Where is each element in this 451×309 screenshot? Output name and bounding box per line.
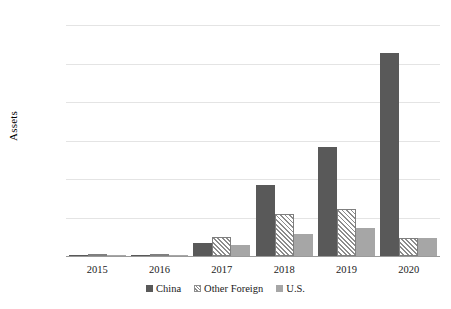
legend-item-china[interactable]: China bbox=[146, 283, 181, 294]
bar-groups: 201520162017201820192020 bbox=[66, 25, 440, 256]
bar-other-2015[interactable] bbox=[88, 254, 107, 256]
x-tick-label: 2019 bbox=[315, 264, 377, 275]
bars bbox=[253, 25, 315, 256]
legend-swatch-icon bbox=[276, 285, 283, 292]
bars bbox=[315, 25, 377, 256]
plot-area: 050100150200250300 201520162017201820192… bbox=[66, 25, 440, 256]
bar-other-2016[interactable] bbox=[150, 254, 169, 256]
bar-us-2019[interactable] bbox=[356, 228, 375, 256]
legend-label: China bbox=[156, 283, 181, 294]
y-axis-title: Assets bbox=[7, 96, 19, 156]
axis-baseline bbox=[66, 256, 440, 257]
bar-other-2019[interactable] bbox=[337, 209, 356, 256]
bar-us-2016[interactable] bbox=[169, 255, 188, 256]
bar-china-2016[interactable] bbox=[131, 255, 150, 256]
legend-swatch-icon bbox=[146, 285, 153, 292]
bar-us-2018[interactable] bbox=[294, 234, 313, 256]
bar-group: 2015 bbox=[66, 25, 128, 256]
bar-group: 2020 bbox=[378, 25, 440, 256]
bar-us-2015[interactable] bbox=[107, 255, 126, 256]
bar-china-2015[interactable] bbox=[69, 255, 88, 256]
bar-chart: Assets 050100150200250300 20152016201720… bbox=[0, 0, 451, 309]
bars bbox=[378, 25, 440, 256]
bar-other-2017[interactable] bbox=[212, 237, 231, 256]
bars bbox=[128, 25, 190, 256]
bar-china-2018[interactable] bbox=[256, 185, 275, 256]
legend-label: Other Foreign bbox=[204, 283, 263, 294]
x-tick-label: 2017 bbox=[191, 264, 253, 275]
legend-swatch-icon bbox=[194, 285, 201, 292]
legend-item-us[interactable]: U.S. bbox=[276, 283, 305, 294]
legend-item-other[interactable]: Other Foreign bbox=[194, 283, 263, 294]
legend-label: U.S. bbox=[286, 283, 305, 294]
x-tick-label: 2015 bbox=[66, 264, 128, 275]
bar-china-2017[interactable] bbox=[193, 243, 212, 256]
x-tick-label: 2018 bbox=[253, 264, 315, 275]
bar-other-2018[interactable] bbox=[275, 214, 294, 256]
bar-other-2020[interactable] bbox=[399, 238, 418, 256]
bar-china-2020[interactable] bbox=[380, 53, 399, 256]
x-tick-label: 2020 bbox=[378, 264, 440, 275]
bar-china-2019[interactable] bbox=[318, 147, 337, 256]
bar-group: 2019 bbox=[315, 25, 377, 256]
x-tick-label: 2016 bbox=[128, 264, 190, 275]
bar-us-2017[interactable] bbox=[231, 245, 250, 256]
bar-group: 2016 bbox=[128, 25, 190, 256]
bars bbox=[191, 25, 253, 256]
bar-group: 2017 bbox=[191, 25, 253, 256]
bar-group: 2018 bbox=[253, 25, 315, 256]
bars bbox=[66, 25, 128, 256]
chart-legend: ChinaOther ForeignU.S. bbox=[0, 283, 451, 294]
bar-us-2020[interactable] bbox=[418, 238, 437, 256]
